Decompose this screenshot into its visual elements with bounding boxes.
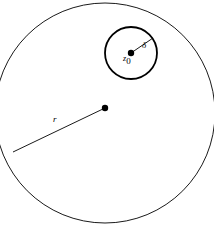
outer-center-dot bbox=[102, 105, 108, 111]
outer-radius-label: r bbox=[53, 115, 57, 124]
inner-center-label-subscript: 0 bbox=[126, 56, 131, 66]
circle-diagram-figure: r δ z0 bbox=[0, 0, 214, 228]
inner-radius-label: δ bbox=[142, 41, 146, 50]
inner-center-label: z0 bbox=[123, 55, 131, 66]
diagram-svg bbox=[0, 0, 214, 228]
